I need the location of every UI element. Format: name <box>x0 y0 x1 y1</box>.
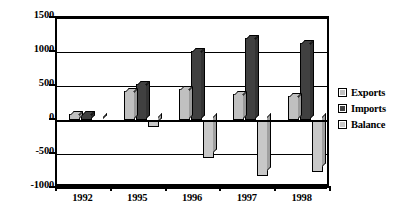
legend-item-imports[interactable]: Imports <box>338 102 416 115</box>
chart-legend: ExportsImportsBalance <box>338 86 416 134</box>
legend-swatch-icon <box>338 88 347 97</box>
y-axis-tick-label: 0 <box>0 112 54 123</box>
bar-side-face <box>298 93 302 119</box>
x-axis-tick-label-1992: 1992 <box>54 192 110 204</box>
legend-swatch-icon <box>338 120 347 129</box>
x-axis-tick-label-1996: 1996 <box>164 192 220 204</box>
x-axis-tick-mark <box>55 186 57 191</box>
bar-exports-1997 <box>233 94 244 120</box>
bar-side-face <box>201 48 205 119</box>
gridline <box>57 154 327 155</box>
bar-side-face <box>146 81 150 119</box>
gridline <box>57 188 327 189</box>
x-axis-line <box>55 186 329 188</box>
legend-label: Balance <box>351 119 385 130</box>
bar-side-face <box>243 91 247 119</box>
y-axis-line <box>55 16 57 186</box>
bar-balance-1998 <box>312 120 323 172</box>
gridline <box>57 18 327 19</box>
x-axis-tick-mark <box>274 186 276 191</box>
x-axis-tick-mark <box>110 186 112 191</box>
bar-exports-1996 <box>179 89 190 120</box>
y-axis-tick-label: 1500 <box>0 10 54 21</box>
bar-exports-1998 <box>288 96 299 120</box>
bar-side-face <box>310 40 314 119</box>
y-axis-tick-label: 1000 <box>0 44 54 55</box>
bar-side-face <box>213 113 217 153</box>
legend-label: Exports <box>351 87 385 98</box>
y-axis-tick-label: 500 <box>0 78 54 89</box>
x-axis-tick-mark <box>329 186 331 191</box>
chart-figure: 150010005000-500-1000 199219951996199719… <box>0 0 416 212</box>
x-axis-tick-mark <box>219 186 221 191</box>
legend-item-balance[interactable]: Balance <box>338 118 416 131</box>
bar-exports-1992 <box>69 114 80 120</box>
bar-side-face <box>255 35 259 119</box>
x-axis-tick-label-1995: 1995 <box>109 192 165 204</box>
bar-side-face <box>189 86 193 119</box>
bar-balance-1996 <box>203 120 214 158</box>
x-axis-tick-label-1998: 1998 <box>274 192 330 204</box>
x-axis-tick-mark <box>165 186 167 191</box>
bar-exports-1995 <box>124 91 135 120</box>
legend-label: Imports <box>351 103 386 114</box>
bar-side-face <box>134 88 138 119</box>
legend-item-exports[interactable]: Exports <box>338 86 416 99</box>
plot-area <box>55 16 329 186</box>
y-axis-tick-label: -1000 <box>0 180 54 191</box>
bar-balance-1997 <box>257 120 268 176</box>
zero-axis-line <box>57 120 327 122</box>
bar-side-face <box>103 113 107 119</box>
y-axis-tick-label: -500 <box>0 146 54 157</box>
legend-swatch-icon <box>338 104 347 113</box>
x-axis-tick-label-1997: 1997 <box>219 192 275 204</box>
